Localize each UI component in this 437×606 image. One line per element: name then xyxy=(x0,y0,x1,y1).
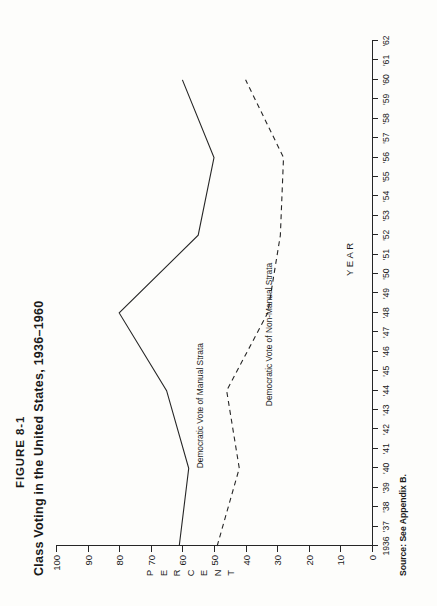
y-axis-tick xyxy=(119,546,120,552)
series-label-non-manual-strata: Democratic Vote of Non-Manual Strata xyxy=(264,263,274,406)
x-axis-tick xyxy=(372,351,378,352)
x-axis-tick xyxy=(372,370,378,371)
x-axis-tick-label: '38 xyxy=(381,502,391,513)
figure-container: FIGURE 8-1 Class Voting in the United St… xyxy=(0,0,437,606)
series-line-manual-strata xyxy=(119,80,214,546)
x-axis-tick xyxy=(372,118,378,119)
x-axis-tick xyxy=(372,506,378,507)
chart-lines xyxy=(56,41,372,546)
x-axis-tick-label: '47 xyxy=(381,327,391,338)
x-axis-tick xyxy=(372,195,378,196)
x-axis-tick xyxy=(372,254,378,255)
y-axis-tick xyxy=(214,546,215,552)
y-axis-tick-label: 90 xyxy=(82,555,93,566)
x-axis-tick-label: '40 xyxy=(381,463,391,474)
x-axis-tick-label: '43 xyxy=(381,404,391,415)
x-axis-tick-label: '39 xyxy=(381,482,391,493)
x-axis-tick xyxy=(372,487,378,488)
x-axis-tick xyxy=(372,390,378,391)
y-axis-tick xyxy=(372,546,373,552)
x-axis-tick-label: '53 xyxy=(381,210,391,221)
y-axis-tick xyxy=(340,546,341,552)
x-axis-tick xyxy=(372,331,378,332)
x-axis-tick-label: '46 xyxy=(381,346,391,357)
series-label-manual-strata: Democratic Vote of Manual Strata xyxy=(195,343,205,468)
x-axis-tick xyxy=(372,137,378,138)
x-axis-tick-label: '58 xyxy=(381,113,391,124)
x-axis-tick xyxy=(372,526,378,527)
x-axis-tick xyxy=(372,40,378,41)
rotated-page-content: FIGURE 8-1 Class Voting in the United St… xyxy=(0,0,437,606)
x-axis-tick-label: '50 xyxy=(381,268,391,279)
y-axis-title-letter: N xyxy=(212,566,226,580)
x-axis-tick-label: '57 xyxy=(381,133,391,144)
x-axis-tick xyxy=(372,98,378,99)
x-axis-tick xyxy=(372,215,378,216)
x-axis-tick xyxy=(372,467,378,468)
figure-number: FIGURE 8-1 xyxy=(14,416,26,488)
x-axis-tick xyxy=(372,448,378,449)
y-axis-title-letter: E xyxy=(158,566,172,580)
y-axis-tick-label: 100 xyxy=(51,555,62,571)
x-axis-tick-label: '59 xyxy=(381,94,391,105)
y-axis-title-letter: P xyxy=(144,566,158,580)
y-axis-tick-label: 20 xyxy=(303,555,314,566)
x-axis-tick-label: '37 xyxy=(381,521,391,532)
y-axis-title-letter: C xyxy=(185,566,199,580)
x-axis-tick xyxy=(372,545,378,546)
y-axis-tick xyxy=(56,546,57,552)
x-axis-tick-label: '42 xyxy=(381,424,391,435)
figure-title: Class Voting in the United States, 1936–… xyxy=(32,301,46,576)
y-axis-tick-label: 10 xyxy=(335,555,346,566)
y-axis-tick xyxy=(246,546,247,552)
x-axis-tick-label: '49 xyxy=(381,288,391,299)
y-axis-tick-label: 30 xyxy=(272,555,283,566)
y-axis-tick-label: 80 xyxy=(114,555,125,566)
x-axis-tick xyxy=(372,234,378,235)
x-axis-tick-label: 1936 xyxy=(381,536,391,555)
x-axis-tick xyxy=(372,79,378,80)
x-axis-tick xyxy=(372,157,378,158)
y-axis-tick xyxy=(277,546,278,552)
x-axis-tick-label: '48 xyxy=(381,307,391,318)
plot-area: 0102030405060708090100 1936'37'38'39'40'… xyxy=(56,41,372,546)
y-axis-tick-label: 60 xyxy=(177,555,188,566)
y-axis-tick-label: 50 xyxy=(209,555,220,566)
y-axis-tick-label: 0 xyxy=(367,555,378,560)
x-axis-tick xyxy=(372,312,378,313)
x-axis-tick xyxy=(372,273,378,274)
y-axis-tick xyxy=(88,546,89,552)
x-axis-tick-label: '54 xyxy=(381,191,391,202)
x-axis-tick-label: '51 xyxy=(381,249,391,260)
y-axis-tick xyxy=(309,546,310,552)
x-axis-tick-label: '41 xyxy=(381,443,391,454)
x-axis-tick-label: '62 xyxy=(381,35,391,46)
x-axis-tick-label: '55 xyxy=(381,171,391,182)
y-axis-title-letter: T xyxy=(225,566,239,580)
x-axis-tick xyxy=(372,409,378,410)
y-axis-title-letter: E xyxy=(198,566,212,580)
x-axis-tick-label: '45 xyxy=(381,366,391,377)
y-axis-title-letter: R xyxy=(171,566,185,580)
y-axis-tick-label: 40 xyxy=(240,555,251,566)
y-axis-tick xyxy=(182,546,183,552)
y-axis-tick xyxy=(151,546,152,552)
x-axis-tick-label: '52 xyxy=(381,230,391,241)
x-axis-tick-label: '44 xyxy=(381,385,391,396)
x-axis-tick-label: '61 xyxy=(381,55,391,66)
x-axis-tick xyxy=(372,59,378,60)
y-axis-title: PERCENT xyxy=(144,566,239,580)
x-axis-tick xyxy=(372,176,378,177)
figure-page: FIGURE 8-1 Class Voting in the United St… xyxy=(0,0,437,606)
x-axis-tick xyxy=(372,293,378,294)
x-axis-title: YEAR xyxy=(344,241,355,276)
x-axis-tick xyxy=(372,428,378,429)
source-note: Source: See Appendix B. xyxy=(398,474,408,576)
x-axis-tick-label: '60 xyxy=(381,74,391,85)
x-axis-tick-label: '56 xyxy=(381,152,391,163)
y-axis-tick-label: 70 xyxy=(145,555,156,566)
